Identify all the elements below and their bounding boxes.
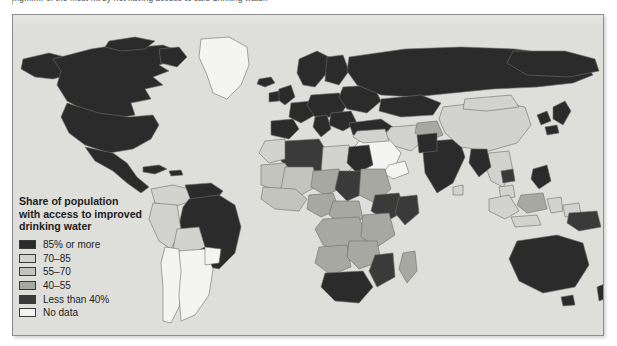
world-map-figure-panel: .c85 { fill: #2b2b2b; } .c7085{ fill: #d… (12, 14, 604, 336)
legend-label-85-or-more: 85% or more (43, 239, 100, 250)
legend-item-less-than-40[interactable]: Less than 40% (19, 293, 169, 305)
region-cambodia (501, 169, 515, 183)
legend-swatch-70-85 (19, 254, 36, 263)
caption-text: ...g........ of the most hit by not havi… (12, 0, 268, 3)
legend-item-40-55[interactable]: 40–55 (19, 280, 169, 292)
region-ireland (269, 91, 279, 102)
legend-item-no-data[interactable]: No data (19, 307, 169, 319)
legend-label-70-85: 70–85 (43, 253, 71, 264)
caption-strip: ...g........ of the most hit by not havi… (0, 0, 617, 11)
map-legend: Share of population with access to impro… (19, 195, 169, 320)
region-tasmania (561, 295, 575, 306)
legend-swatch-85-or-more (19, 240, 36, 249)
region-java (511, 215, 541, 227)
legend-title: Share of population with access to impro… (19, 195, 169, 233)
legend-swatch-no-data (19, 308, 36, 317)
region-hispaniola (169, 170, 183, 176)
legend-label-less-than-40: Less than 40% (43, 294, 109, 305)
legend-label-no-data: No data (43, 307, 78, 318)
region-japan-south (545, 125, 559, 135)
legend-item-70-85[interactable]: 70–85 (19, 252, 169, 264)
region-pakistan (417, 133, 437, 153)
legend-item-85-or-more[interactable]: 85% or more (19, 239, 169, 251)
legend-item-55-70[interactable]: 55–70 (19, 266, 169, 278)
legend-label-55-70: 55–70 (43, 266, 71, 277)
legend-swatch-less-than-40 (19, 295, 36, 304)
legend-label-40-55: 40–55 (43, 280, 71, 291)
legend-swatch-55-70 (19, 267, 36, 276)
legend-swatch-40-55 (19, 281, 36, 290)
region-uruguay-paraguay (205, 247, 221, 265)
region-sri-lanka (453, 185, 463, 195)
